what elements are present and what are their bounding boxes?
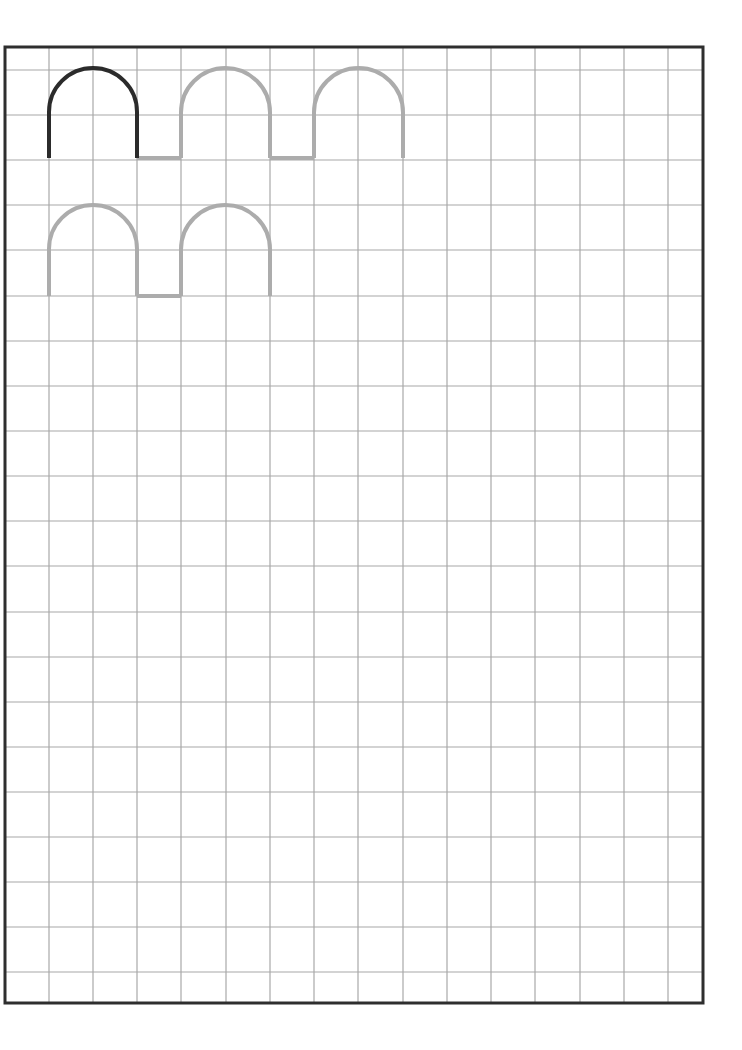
grid-lines (5, 47, 703, 1003)
tracing-worksheet (0, 0, 742, 1050)
worksheet-frame (5, 47, 703, 1003)
